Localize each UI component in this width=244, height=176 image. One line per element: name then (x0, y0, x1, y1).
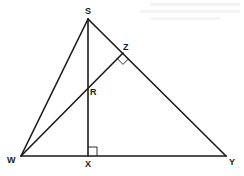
label-z: Z (123, 42, 129, 52)
altitude-wz (21, 53, 123, 156)
right-angle-marker-z (117, 59, 128, 65)
side-sy (88, 19, 226, 156)
label-s: S (85, 6, 91, 16)
label-w: W (7, 155, 16, 165)
geometry-diagram: S Z R W X Y (0, 0, 244, 176)
side-sw (21, 19, 88, 156)
label-y: Y (229, 157, 235, 167)
bleed-through-text (140, 3, 240, 20)
right-angle-marker-x (88, 147, 97, 156)
label-x: X (85, 159, 91, 169)
label-r: R (90, 87, 97, 97)
